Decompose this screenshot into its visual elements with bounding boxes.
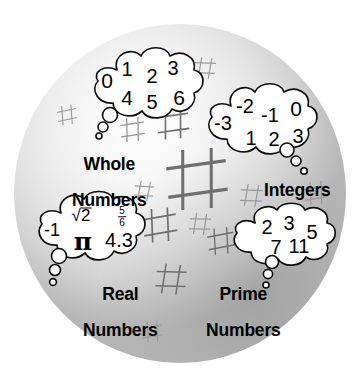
label-line: Numbers <box>83 320 157 340</box>
label-whole-numbers: Whole Numbers <box>53 137 146 227</box>
label-prime-numbers: Prime Numbers <box>187 267 280 357</box>
label-line: Whole <box>84 154 136 174</box>
hash-icon <box>55 103 80 128</box>
label-line: Prime <box>220 284 268 304</box>
label-line: Real <box>102 284 138 304</box>
label-integers: Integers <box>245 163 330 217</box>
label-line: Numbers <box>206 320 280 340</box>
thought-cloud-integers: -2 -1 0 -3 1 2 3 <box>196 80 321 160</box>
hash-icon <box>153 261 190 298</box>
thought-cloud-whole-numbers: 0 1 2 3 4 5 6 <box>82 44 207 124</box>
label-line: Integers <box>264 180 330 200</box>
label-line: Numbers <box>72 190 146 210</box>
label-real-numbers: Real Numbers <box>64 267 157 357</box>
diagram-canvas: 0 1 2 3 4 5 6 -2 -1 0 -3 1 2 3 <box>0 0 357 377</box>
